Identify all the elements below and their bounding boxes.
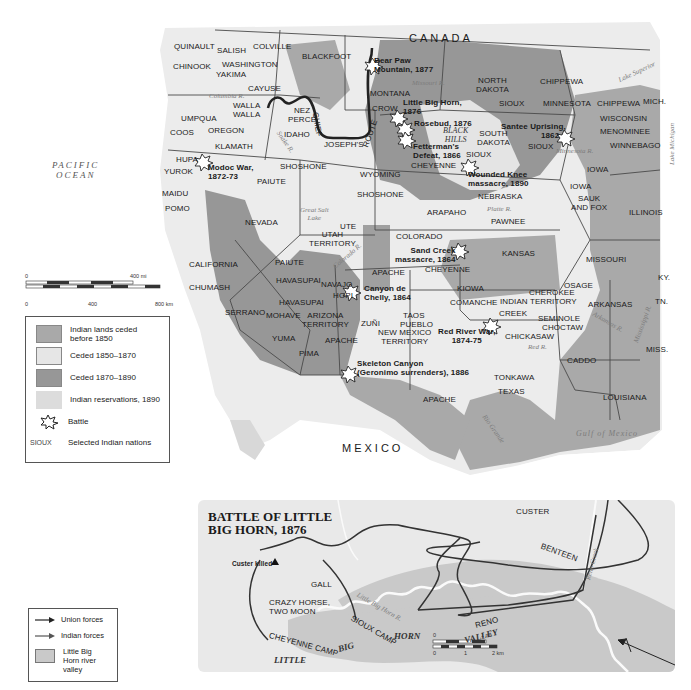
nation-cheyenne-2: CHEYENNE xyxy=(425,265,470,274)
nation-walla-walla: WALLAWALLA xyxy=(233,101,260,119)
battle-modoc-war: Modoc War,1872-73 xyxy=(208,163,254,181)
label-platte-river: Platte R. xyxy=(487,205,512,213)
label-arkansas: ARKANSAS xyxy=(588,300,632,309)
nation-maidu: MAIDU xyxy=(162,189,188,198)
label-washington: WASHINGTON xyxy=(222,60,278,69)
legend-swatch xyxy=(35,649,55,663)
inset-label-horn: HORN xyxy=(394,632,420,641)
scale-km-zero: 0 xyxy=(25,301,28,307)
nation-paiute-2: PAIUTE xyxy=(275,258,304,267)
label-iowa: IOWA xyxy=(587,165,608,174)
inset-scale-mi-max: 1 mi xyxy=(481,632,491,638)
legend-item-reservations: Indian reservations, 1890 xyxy=(36,391,160,408)
label-missouri: MISSOURI xyxy=(586,255,626,264)
nation-menominee: MENOMINEE xyxy=(600,127,650,136)
label-minnesota-river: Minnesota R. xyxy=(556,147,593,155)
nation-chinook: CHINOOK xyxy=(173,62,211,71)
battle-wounded-knee: Wounded Kneemassacre, 1890 xyxy=(468,170,529,188)
nation-zuni: ZUÑI xyxy=(361,319,380,328)
nation-pomo: POMO xyxy=(165,204,190,213)
nation-quinault: QUINAULT xyxy=(174,42,215,51)
scale-km-mid: 400 xyxy=(88,301,97,307)
nation-chippewa-1: CHIPPEWA xyxy=(540,77,583,86)
battle-little-big-horn: Little Big Horn,1876 xyxy=(403,98,462,116)
battle-red-river-war: Red River War,1874-75 xyxy=(438,327,496,345)
nation-umpqua: UMPQUA xyxy=(181,114,217,123)
label-pacific-ocean: PACIFIC OCEAN xyxy=(52,160,99,180)
inset-legend-union: Union forces xyxy=(35,615,103,624)
nation-sioux-2: SIOUX xyxy=(466,150,491,159)
nation-chumash: CHUMASH xyxy=(189,283,230,292)
label-gulf-of-mexico: Gulf of Mexico xyxy=(576,429,638,438)
nation-paiute-1: PAIUTE xyxy=(257,177,286,186)
label-columbia-river: Columbia R. xyxy=(209,92,244,100)
label-illinois: ILLINOIS xyxy=(629,208,663,217)
nation-comanche: COMANCHE xyxy=(450,298,497,307)
nation-navajo: NAVAJO xyxy=(321,280,352,289)
nation-yakima: YAKIMA xyxy=(216,70,246,79)
label-oregon: OREGON xyxy=(208,126,244,135)
nation-ute: UTE xyxy=(340,222,356,231)
label-north-dakota: NORTHDAKOTA xyxy=(476,76,509,94)
scale-bar xyxy=(25,280,165,290)
nation-chickasaw: CHICKASAW xyxy=(505,332,554,341)
map-legend: Indian lands cededbefore 1850 Ceded 1850… xyxy=(25,316,170,463)
label-missouri-river: Missouri R. xyxy=(412,79,445,87)
label-mexico: MEXICO xyxy=(342,442,403,454)
nation-tonkawa: TONKAWA xyxy=(494,373,534,382)
battle-canyon-de-chelly: Canyon deChelly, 1864 xyxy=(364,284,411,302)
legend-item-nations: SIOUX Selected Indian nations xyxy=(30,434,151,451)
nation-blackfoot: BLACKFOOT xyxy=(302,52,351,61)
label-nevada: NEVADA xyxy=(245,218,278,227)
nation-colville: COLVILLE xyxy=(253,42,291,51)
label-lake-michigan: Lake Michigan xyxy=(668,123,676,165)
label-canada: CANADA xyxy=(409,32,473,44)
nation-klamath: KLAMATH xyxy=(215,142,253,151)
inset-scale-km-zero: 0 xyxy=(433,650,436,656)
legend-swatch xyxy=(36,325,62,343)
nation-shoshone-1: SHOSHONE xyxy=(280,162,327,171)
inset-scale-km-mid: 1 xyxy=(464,650,467,656)
little-big-horn-inset: BATTLE OF LITTLEBIG HORN, 1876 CUSTER BE… xyxy=(198,500,675,672)
inset-legend-indian: Indian forces xyxy=(35,631,104,640)
battle-skeleton-canyon: Skeleton Canyon(Geronimo surrenders), 18… xyxy=(357,359,469,377)
label-ky: KY. xyxy=(658,273,670,282)
nation-sioux-1: SIOUX xyxy=(499,99,524,108)
inset-scale-km-max: 2 km xyxy=(492,650,504,656)
legend-item-ceded-pre1850: Indian lands cededbefore 1850 xyxy=(36,325,137,342)
nation-yuma: YUMA xyxy=(272,334,296,343)
nation-havasupai-1: HAVASUPAI xyxy=(276,276,321,285)
label-nebraska: NEBRASKA xyxy=(478,192,522,201)
nation-taos: TAOS xyxy=(403,311,425,320)
nation-havasupai-2: HAVASUPAI xyxy=(279,298,324,307)
legend-swatch xyxy=(36,391,62,409)
label-colorado: COLORADO xyxy=(396,232,443,241)
nation-iowa: IOWA xyxy=(570,182,591,191)
label-minnesota: MINNESOTA xyxy=(543,99,591,108)
nation-choctaw: CHOCTAW xyxy=(542,323,583,332)
nation-osage: OSAGE xyxy=(564,281,593,290)
nation-arapaho: ARAPAHO xyxy=(427,208,466,217)
nation-mohave: MOHAVE xyxy=(266,311,301,320)
nation-hupa: HUPA xyxy=(176,155,198,164)
nation-creek: CREEK xyxy=(499,309,527,318)
battle-star-icon xyxy=(36,414,60,430)
inset-label-little: LITTLE xyxy=(274,656,306,665)
nation-cayuse: CAYUSE xyxy=(248,84,281,93)
label-tn: TN. xyxy=(655,297,668,306)
nation-shoshone-2: SHOSHONE xyxy=(357,190,404,199)
arrow-right-icon xyxy=(35,633,55,639)
label-montana: MONTANA xyxy=(370,89,410,98)
battle-rosebud: Rosebud, 1876 xyxy=(414,119,472,128)
label-utah-territory: UTAHTERRITORY xyxy=(309,230,356,248)
nation-hopi: HOPI xyxy=(333,291,353,300)
route-label-josephs: JOSEPH'S xyxy=(324,140,364,149)
legend-item-ceded-1850-1870: Ceded 1850–1870 xyxy=(36,347,136,364)
nation-seminole: SEMINOLE xyxy=(538,314,580,323)
battle-bear-paw: Bear PawMountain, 1877 xyxy=(374,56,433,74)
nation-winnebago: WINNEBAGO xyxy=(610,141,661,150)
nation-pima: PIMA xyxy=(299,349,319,358)
label-red-river: Red R. xyxy=(528,343,547,351)
scale-mi-max: 400 mi xyxy=(130,273,147,279)
label-wisconsin: WISCONSIN xyxy=(600,114,647,123)
